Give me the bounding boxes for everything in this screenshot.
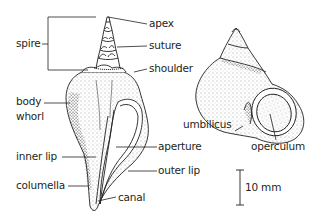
label-body: body <box>16 96 41 107</box>
label-whorl: whorl <box>16 111 44 122</box>
label-canal: canal <box>118 192 145 203</box>
label-inner-lip: inner lip <box>16 151 57 162</box>
label-operculum: operculum <box>251 141 305 152</box>
label-spire: spire <box>16 38 41 49</box>
scale-bar <box>236 170 244 205</box>
label-apex: apex <box>149 18 174 29</box>
shell-anatomy-diagram: spire apex suture shoulder body whorl in… <box>0 0 321 219</box>
label-shoulder: shoulder <box>149 63 193 74</box>
label-umbilicus: umbilicus <box>183 119 231 130</box>
label-suture: suture <box>149 40 181 51</box>
label-aperture: aperture <box>158 141 202 152</box>
scale-bar-label: 10 mm <box>245 182 281 193</box>
label-columella: columella <box>16 180 65 191</box>
label-outer-lip: outer lip <box>158 165 200 176</box>
